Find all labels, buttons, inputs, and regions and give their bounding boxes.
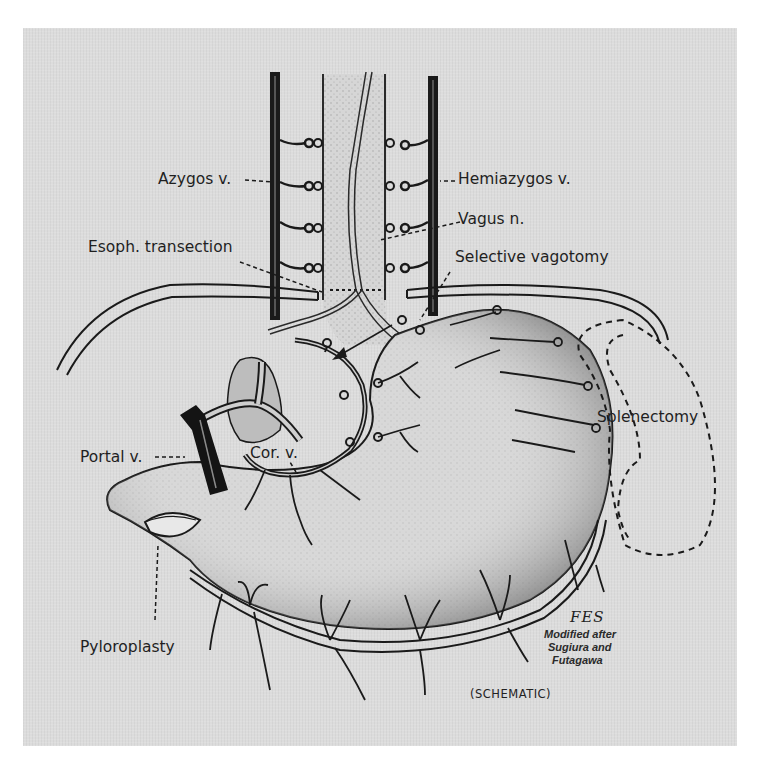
azygos-vein [270, 72, 313, 320]
label-splenectomy: Splenectomy [597, 410, 698, 426]
schematic-caption: (SCHEMATIC) [470, 687, 551, 701]
label-coronary-vein: Cor. v. [250, 446, 298, 462]
pancreas-liver-structure [200, 358, 300, 443]
artist-signature: FES [570, 608, 605, 626]
credit-note: Modified after Sugiura and Futagawa [544, 628, 616, 667]
label-esophageal-transection: Esoph. transection [88, 240, 232, 256]
label-vagus-nerve: Vagus n. [458, 212, 524, 228]
label-pyloroplasty: Pyloroplasty [80, 640, 175, 656]
stomach [107, 310, 612, 629]
label-azygos-vein: Azygos v. [158, 172, 231, 188]
credit-line-2: Sugiura and [544, 641, 616, 654]
label-portal-vein: Portal v. [80, 450, 142, 466]
credit-line-1: Modified after [544, 628, 616, 641]
credit-line-3: Futagawa [544, 654, 616, 667]
hemiazygos-vein [401, 76, 438, 316]
label-hemiazygos-vein: Hemiazygos v. [458, 172, 571, 188]
label-selective-vagotomy: Selective vagotomy [455, 250, 609, 266]
